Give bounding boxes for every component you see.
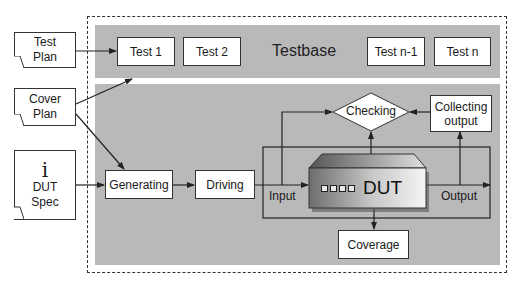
dut-label: DUT xyxy=(363,177,402,199)
dut-led-indicators xyxy=(321,185,355,192)
collecting-output-block[interactable]: Collecting output xyxy=(430,95,492,132)
collecting-output-line2: output xyxy=(444,114,477,128)
cover-plan-document[interactable]: Cover Plan xyxy=(14,88,76,126)
coverage-block[interactable]: Coverage xyxy=(338,230,409,259)
input-label: Input xyxy=(269,189,296,203)
cover-plan-line2: Plan xyxy=(33,107,57,122)
page-fold-icon xyxy=(14,114,24,126)
dut-spec-line1: DUT xyxy=(33,180,58,195)
test-box-n[interactable]: Test n xyxy=(434,37,491,66)
page-fold-icon xyxy=(14,56,24,68)
generating-block[interactable]: Generating xyxy=(105,170,173,199)
cover-plan-line1: Cover xyxy=(29,92,61,107)
output-label: Output xyxy=(441,189,477,203)
info-icon: i xyxy=(42,160,48,180)
collecting-output-line1: Collecting xyxy=(435,100,488,114)
test-plan-line2: Plan xyxy=(33,50,57,65)
test-plan-line1: Test xyxy=(34,35,56,50)
dut-spec-document[interactable]: i DUT Spec xyxy=(14,150,76,220)
testbase-title: Testbase xyxy=(272,42,336,60)
test-box-n-minus-1[interactable]: Test n-1 xyxy=(367,37,425,66)
driving-block[interactable]: Driving xyxy=(195,170,255,199)
test-box-1[interactable]: Test 1 xyxy=(117,37,175,66)
page-fold-icon xyxy=(14,206,24,220)
test-box-2[interactable]: Test 2 xyxy=(183,37,241,66)
checking-label[interactable]: Checking xyxy=(346,104,396,118)
dut-spec-line2: Spec xyxy=(31,195,58,210)
dut-block[interactable]: DUT xyxy=(309,168,426,208)
test-plan-document[interactable]: Test Plan xyxy=(14,32,76,68)
